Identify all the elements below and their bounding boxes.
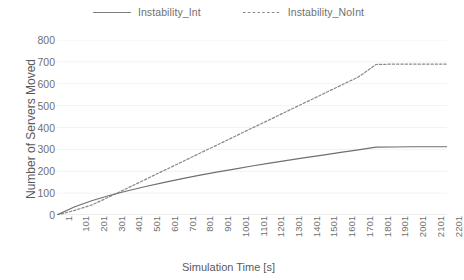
legend-line-solid-icon xyxy=(93,8,131,17)
x-axis-tick-label: 1701 xyxy=(362,216,372,237)
x-axis-tick-label: 1301 xyxy=(291,216,301,237)
x-axis-tick-labels: 1101201301401501601701801901100111011201… xyxy=(57,216,447,258)
x-axis-tick-label: 1801 xyxy=(380,216,390,237)
y-axis-tick-label: 600 xyxy=(21,79,55,90)
legend-item-instability-noint: Instability_NoInt xyxy=(243,6,364,18)
legend-item-instability-int: Instability_Int xyxy=(93,6,201,18)
x-axis-tick-label: 1201 xyxy=(273,216,283,237)
x-axis-tick-label: 1 xyxy=(61,216,71,221)
x-axis-tick-label: 601 xyxy=(167,216,177,232)
y-axis-tick-labels: 8007006005004003002001000 xyxy=(21,0,55,280)
x-axis-tick-label: 701 xyxy=(185,216,195,232)
x-axis-title: Simulation Time [s] xyxy=(0,261,457,273)
x-axis-tick-label: 2001 xyxy=(415,216,425,237)
y-axis-tick-label: 400 xyxy=(21,123,55,134)
x-axis-tick-label: 901 xyxy=(220,216,230,232)
x-axis-tick-label: 2201 xyxy=(451,216,461,237)
x-axis-tick-label: 201 xyxy=(96,216,106,232)
series-line-instability-noint xyxy=(57,64,447,215)
x-axis-tick-label: 401 xyxy=(131,216,141,232)
legend-line-dotted-icon xyxy=(243,8,281,17)
gridlines xyxy=(57,40,447,193)
x-axis-tick-label: 501 xyxy=(149,216,159,232)
x-axis-tick-label: 2101 xyxy=(433,216,443,237)
y-axis-tick-label: 300 xyxy=(21,144,55,155)
y-axis-tick-label: 200 xyxy=(21,166,55,177)
y-axis-tick-label: 100 xyxy=(21,188,55,199)
x-axis-tick-label: 1401 xyxy=(309,216,319,237)
x-axis-tick-label: 801 xyxy=(202,216,212,232)
x-axis-tick-label: 301 xyxy=(114,216,124,232)
legend-label: Instability_Int xyxy=(138,6,201,18)
chart-legend: Instability_Int Instability_NoInt xyxy=(0,3,457,21)
series-line-instability-int xyxy=(57,147,447,215)
y-axis-tick-label: 500 xyxy=(21,101,55,112)
x-axis-tick-label: 1501 xyxy=(326,216,336,237)
legend-label: Instability_NoInt xyxy=(288,6,364,18)
plot-svg xyxy=(57,40,447,215)
plot-area xyxy=(57,40,447,215)
x-axis-tick-label: 1101 xyxy=(256,216,266,236)
x-axis-tick-label: 1001 xyxy=(238,216,248,237)
y-axis-tick-label: 800 xyxy=(21,35,55,46)
y-axis-tick-label: 700 xyxy=(21,57,55,68)
x-axis-tick-label: 101 xyxy=(78,216,88,232)
x-axis-tick-label: 1601 xyxy=(344,216,354,237)
y-axis-tick-label: 0 xyxy=(21,210,55,221)
x-axis-tick-label: 1901 xyxy=(397,216,407,237)
